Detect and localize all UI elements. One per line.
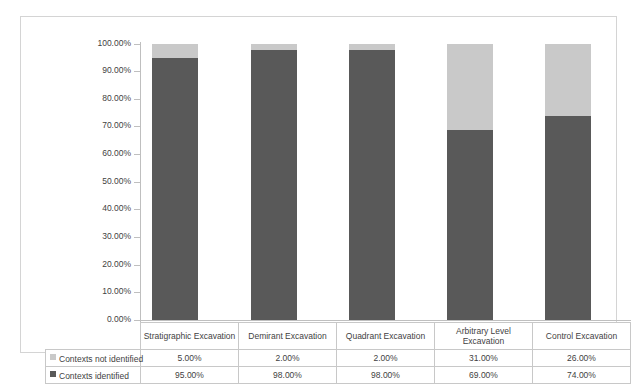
legend-swatch-icon bbox=[50, 354, 56, 360]
table-row: Contexts identified 95.00% 98.00% 98.00%… bbox=[46, 367, 631, 384]
table-column-header: Stratigraphic Excavation bbox=[141, 323, 239, 350]
bar-segment-not-identified[interactable] bbox=[447, 44, 493, 130]
table-row: Contexts not identified 5.00% 2.00% 2.00… bbox=[46, 350, 631, 367]
table-header-row: Stratigraphic Excavation Demirant Excava… bbox=[46, 323, 631, 350]
legend-key-identified: Contexts identified bbox=[46, 367, 141, 384]
bar-column[interactable] bbox=[152, 44, 198, 320]
bar-segment-identified[interactable] bbox=[251, 50, 297, 320]
bar-column[interactable] bbox=[349, 44, 395, 320]
bar-segment-identified[interactable] bbox=[447, 130, 493, 320]
value-axis-tick-label: 80.00% bbox=[69, 94, 131, 103]
value-axis-tick-label: 20.00% bbox=[69, 260, 131, 269]
category-axis-line bbox=[140, 320, 631, 321]
legend-label: Contexts identified bbox=[59, 370, 129, 380]
bar-segment-not-identified[interactable] bbox=[251, 44, 297, 50]
bar-column[interactable] bbox=[447, 44, 493, 320]
legend-key-not-identified: Contexts not identified bbox=[46, 350, 141, 367]
value-axis-tick-label: 100.00% bbox=[69, 39, 131, 48]
table-cell: 5.00% bbox=[141, 350, 239, 367]
value-axis-tick-label: 50.00% bbox=[69, 177, 131, 186]
bar-segment-not-identified[interactable] bbox=[349, 44, 395, 50]
table-cell: 31.00% bbox=[435, 350, 533, 367]
bar-segment-identified[interactable] bbox=[545, 116, 591, 320]
bar-segment-not-identified[interactable] bbox=[545, 44, 591, 116]
table-cell: 95.00% bbox=[141, 367, 239, 384]
bar-segment-identified[interactable] bbox=[349, 50, 395, 320]
table-corner-cell bbox=[46, 323, 141, 350]
value-axis-tick-label: 40.00% bbox=[69, 204, 131, 213]
table-cell: 69.00% bbox=[435, 367, 533, 384]
value-axis-tick-label: 60.00% bbox=[69, 149, 131, 158]
table-cell: 2.00% bbox=[337, 350, 435, 367]
table-column-header: Demirant Excavation bbox=[239, 323, 337, 350]
table-cell: 74.00% bbox=[533, 367, 631, 384]
table-column-header: Arbitrary Level Excavation bbox=[435, 323, 533, 350]
table-cell: 98.00% bbox=[337, 367, 435, 384]
table-cell: 2.00% bbox=[239, 350, 337, 367]
table-cell: 98.00% bbox=[239, 367, 337, 384]
chart-frame: 100.00% 90.00% 80.00% 70.00% 60.00% 50.0… bbox=[20, 16, 617, 353]
bar-column[interactable] bbox=[545, 44, 591, 320]
legend-swatch-icon bbox=[50, 371, 56, 377]
value-axis-tick-label: 90.00% bbox=[69, 66, 131, 75]
value-axis-tick-label: 30.00% bbox=[69, 232, 131, 241]
chart-data-table: Stratigraphic Excavation Demirant Excava… bbox=[45, 322, 631, 384]
table-column-header: Quadrant Excavation bbox=[337, 323, 435, 350]
value-axis-tick bbox=[134, 320, 140, 321]
bar-column[interactable] bbox=[251, 44, 297, 320]
bar-segment-not-identified[interactable] bbox=[152, 44, 198, 58]
legend-label: Contexts not identified bbox=[59, 353, 143, 363]
value-axis-tick-label: 70.00% bbox=[69, 121, 131, 130]
table-cell: 26.00% bbox=[533, 350, 631, 367]
value-axis-tick-label: 10.00% bbox=[69, 287, 131, 296]
plot-area bbox=[140, 44, 631, 320]
bar-segment-identified[interactable] bbox=[152, 58, 198, 320]
table-column-header: Control Excavation bbox=[533, 323, 631, 350]
